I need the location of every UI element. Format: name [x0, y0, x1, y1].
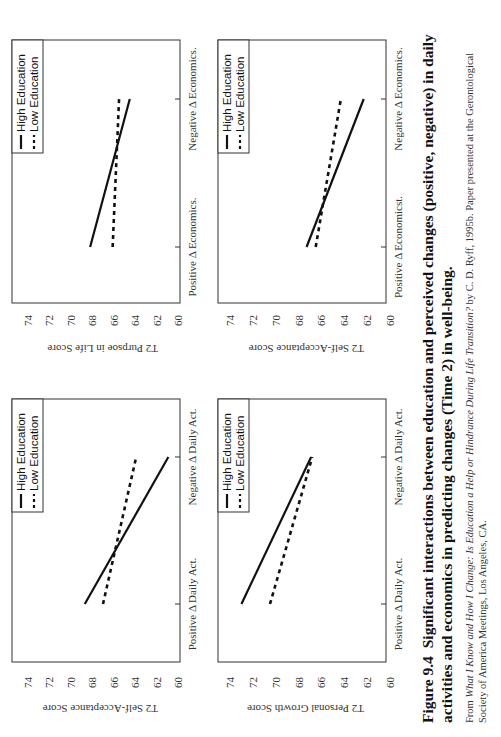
x-label-positive: Positive Δ Economicst.	[392, 196, 404, 298]
source-prefix: From	[464, 698, 475, 723]
figure-title-text: Significant interactions between educati…	[419, 34, 455, 723]
series-line-low-education	[316, 99, 341, 247]
rotated-figure-page: 6062646668707274High EducationLow Educat…	[0, 0, 501, 737]
y-tick-label: 74	[224, 315, 236, 327]
y-tick-label: 70	[270, 315, 282, 327]
source-title: What I Know and How I Change: Is Educati…	[464, 307, 475, 698]
y-tick-label: 64	[338, 315, 350, 327]
figure-title: Figure 9.4 Significant interactions betw…	[418, 23, 456, 723]
figure-source: From What I Know and How I Change: Is Ed…	[463, 23, 489, 723]
legend: High EducationLow Education	[218, 40, 249, 153]
legend-label: Low Education	[234, 57, 246, 132]
x-label-negative: Negative Δ Economics.	[392, 47, 404, 150]
y-tick-label: 66	[315, 315, 327, 327]
figure-caption: Figure 9.4 Significant interactions betw…	[418, 23, 489, 723]
legend-label: High Education	[221, 54, 233, 132]
y-tick-label: 62	[361, 315, 373, 326]
y-axis-title: T2 Self-Acceptance Score	[249, 343, 364, 355]
y-tick-label: 72	[247, 315, 259, 326]
series-line-high-education	[307, 99, 364, 247]
figure-number: Figure 9.4	[419, 656, 436, 723]
y-tick-label: 60	[384, 315, 396, 327]
y-tick-label: 68	[293, 315, 305, 327]
